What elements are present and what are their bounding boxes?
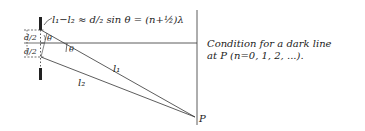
label-theta-slit: θ bbox=[47, 34, 52, 43]
label-half-d-top: d/2 bbox=[24, 33, 37, 42]
label-ray-l1: l₁ bbox=[113, 63, 120, 74]
caption: Condition for a dark line at P (n=0, 1, … bbox=[207, 38, 332, 62]
label-point-p: P bbox=[198, 113, 206, 124]
caption-line2: at P (n=0, 1, 2, ...). bbox=[207, 50, 332, 62]
barrier-top bbox=[39, 17, 42, 30]
pointer-curve bbox=[44, 18, 52, 25]
label-half-d-bottom: d/2 bbox=[24, 47, 37, 56]
equation-text: l₁−l₂ ≈ d/₂ sin θ = (n+½)λ bbox=[52, 14, 184, 25]
double-slit-diagram: l₁−l₂ ≈ d/₂ sin θ = (n+½)λ d/2 d/2 θ θ l… bbox=[0, 0, 365, 131]
theta-arc-slit bbox=[44, 35, 45, 40]
barrier-bottom bbox=[39, 68, 42, 80]
caption-line1: Condition for a dark line bbox=[207, 38, 332, 50]
label-ray-l2: l₂ bbox=[78, 77, 85, 88]
label-theta-axis: θ bbox=[69, 45, 74, 54]
